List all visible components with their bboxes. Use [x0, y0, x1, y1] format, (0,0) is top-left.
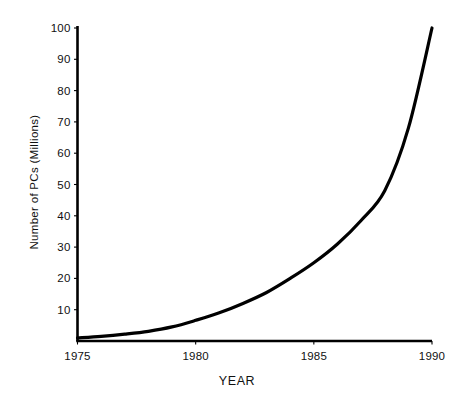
y-axis-tick-label: 100 [37, 22, 71, 34]
x-axis-tick-label: 1990 [402, 350, 461, 362]
y-axis-tick-label: 40 [37, 210, 71, 222]
y-axis-tick-label: 80 [37, 85, 71, 97]
y-axis-tick-label: 70 [37, 116, 71, 128]
x-axis-tick-label: 1985 [284, 350, 344, 362]
chart-data-series [78, 28, 433, 338]
y-axis-tick-label: 20 [37, 272, 71, 284]
x-axis-tick-label: 1980 [166, 350, 226, 362]
x-axis-title: YEAR [177, 374, 297, 388]
x-axis-tick-label: 1975 [48, 350, 108, 362]
y-axis-tick-label: 10 [37, 304, 71, 316]
chart-tick-marks [74, 28, 432, 345]
y-axis-tick-label: 50 [37, 179, 71, 191]
y-axis-tick-label: 90 [37, 53, 71, 65]
y-axis-tick-label: 60 [37, 147, 71, 159]
chart-figure: 102030405060708090100 1975198019851990 N… [0, 0, 461, 406]
y-axis-tick-label: 30 [37, 241, 71, 253]
chart-axes [76, 26, 432, 341]
series-line [78, 28, 433, 338]
y-axis-title: Number of PCs (Millions) [28, 82, 40, 282]
